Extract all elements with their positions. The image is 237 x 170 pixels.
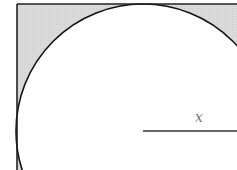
radius-label: x bbox=[195, 109, 203, 125]
diagram-canvas: x bbox=[0, 0, 237, 170]
